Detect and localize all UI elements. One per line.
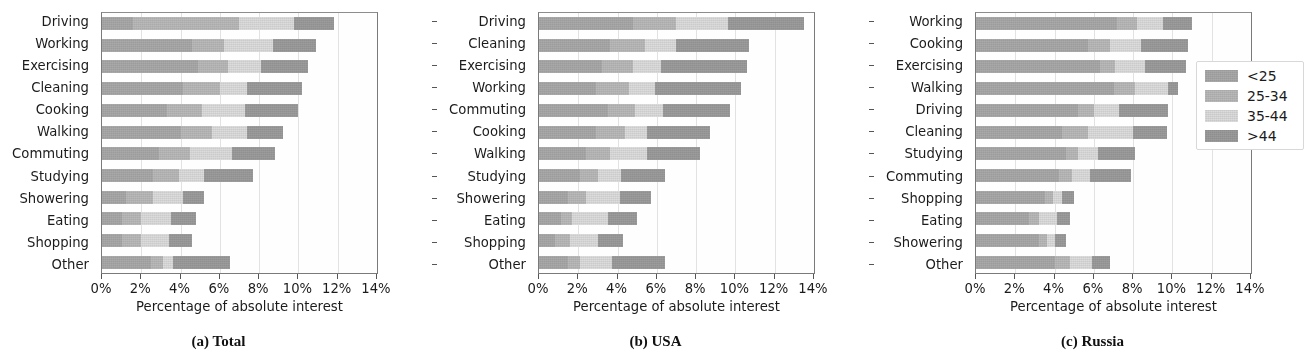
- y-tick-mark: [432, 242, 437, 243]
- bar-segment-lt25: [539, 60, 602, 73]
- y-axis-label: Exercising: [874, 59, 970, 72]
- x-tick-mark: [1211, 274, 1212, 279]
- bar-segment-35-44: [1039, 212, 1057, 225]
- bar-segment-35-44: [153, 191, 182, 204]
- bar-segment-gt44: [169, 234, 193, 247]
- bar-segment-lt25: [102, 234, 122, 247]
- chart-panel-usa: DrivingCleaningExercisingWorkingCommutin…: [437, 0, 874, 363]
- bar-segment-25-34: [133, 17, 239, 30]
- x-tick-mark: [695, 274, 696, 279]
- bar-segment-lt25: [976, 126, 1062, 139]
- bar-segment-lt25: [976, 191, 1045, 204]
- bar-row: [539, 39, 814, 52]
- bar-row: [539, 212, 814, 225]
- bar-segment-gt44: [1145, 60, 1186, 73]
- y-axis-label: Working: [0, 37, 96, 50]
- bar-row: [539, 60, 814, 73]
- bar-segment-lt25: [102, 212, 122, 225]
- bar-segment-25-34: [183, 82, 220, 95]
- bar-segment-gt44: [204, 169, 253, 182]
- bar-row: [539, 17, 814, 30]
- bar-row: [102, 147, 377, 160]
- bar-segment-25-34: [198, 60, 227, 73]
- x-tick-label: 6%: [208, 281, 229, 296]
- bar-row: [102, 104, 377, 117]
- bar-segment-gt44: [1098, 147, 1135, 160]
- bar-segment-35-44: [1137, 17, 1163, 30]
- bar-segment-25-34: [596, 126, 625, 139]
- bar-segment-gt44: [1119, 104, 1168, 117]
- y-axis-label: Walking: [437, 147, 533, 160]
- bar-segment-lt25: [102, 104, 167, 117]
- y-axis-labels-total: DrivingWorkingExercisingCleaningCookingW…: [0, 15, 96, 271]
- bar-segment-lt25: [102, 169, 153, 182]
- bar-segment-gt44: [1090, 169, 1131, 182]
- y-axis-labels-usa: DrivingCleaningExercisingWorkingCommutin…: [437, 15, 533, 271]
- x-axis-ticks-usa: [538, 274, 815, 280]
- x-axis-ticks-total: [101, 274, 378, 280]
- bar-segment-25-34: [610, 39, 645, 52]
- caption-usa: (b) USA: [437, 333, 874, 350]
- bar-segment-gt44: [183, 191, 205, 204]
- bar-segment-lt25: [539, 126, 596, 139]
- bar-segment-gt44: [612, 256, 665, 269]
- bar-segment-gt44: [1055, 234, 1067, 247]
- y-axis-label: Commuting: [0, 147, 96, 160]
- x-tick-label: 4%: [606, 281, 627, 296]
- bar-segment-gt44: [676, 39, 749, 52]
- bar-segment-35-44: [629, 82, 655, 95]
- chart-panel-russia: WorkingCookingExercisingWalkingDrivingCl…: [874, 0, 1311, 363]
- y-axis-label: Other: [437, 258, 533, 271]
- x-tick-label: 12%: [322, 281, 351, 296]
- bar-segment-25-34: [159, 147, 190, 160]
- bar-segment-gt44: [1163, 17, 1192, 30]
- plot-area-russia: WorkingCookingExercisingWalkingDrivingCl…: [874, 0, 1311, 300]
- x-tick-label: 8%: [248, 281, 269, 296]
- bar-segment-25-34: [122, 234, 142, 247]
- bar-segment-35-44: [572, 212, 607, 225]
- legend-label: 35-44: [1247, 108, 1288, 124]
- bar-segment-lt25: [976, 60, 1100, 73]
- x-tick-label: 2%: [1004, 281, 1025, 296]
- bar-segment-lt25: [539, 17, 633, 30]
- plot-area-total: DrivingWorkingExercisingCleaningCookingW…: [0, 0, 437, 300]
- bar-row: [102, 82, 377, 95]
- y-tick-mark: [869, 131, 874, 132]
- x-tick-label: 14%: [1235, 281, 1264, 296]
- y-axis-label: Driving: [0, 15, 96, 28]
- bar-segment-25-34: [167, 104, 202, 117]
- y-tick-mark: [432, 65, 437, 66]
- bar-segment-35-44: [1135, 82, 1168, 95]
- x-tick-mark: [1093, 274, 1094, 279]
- y-axis-label: Driving: [874, 103, 970, 116]
- bar-segment-gt44: [663, 104, 730, 117]
- bar-segment-lt25: [539, 191, 568, 204]
- bar-row: [102, 60, 377, 73]
- y-axis-label: Cooking: [437, 125, 533, 138]
- x-axis-tick-labels-russia: 0%2%4%6%8%10%12%14%: [975, 281, 1252, 298]
- caption-russia: (c) Russia: [874, 333, 1311, 350]
- bar-segment-25-34: [1066, 147, 1078, 160]
- legend-item: 35-44: [1205, 109, 1295, 122]
- bar-segment-gt44: [273, 39, 316, 52]
- x-tick-mark: [1250, 274, 1251, 279]
- x-tick-label: 0%: [91, 281, 112, 296]
- bar-row: [539, 169, 814, 182]
- bar-row: [102, 212, 377, 225]
- y-axis-label: Exercising: [437, 59, 533, 72]
- bar-segment-25-34: [1045, 191, 1053, 204]
- bar-segment-35-44: [570, 234, 598, 247]
- y-axis-label: Walking: [874, 81, 970, 94]
- bar-segment-35-44: [179, 169, 205, 182]
- bar-segment-35-44: [635, 104, 663, 117]
- bar-segment-35-44: [1110, 39, 1141, 52]
- bar-segment-lt25: [976, 39, 1088, 52]
- bar-segment-lt25: [102, 60, 198, 73]
- bar-segment-25-34: [192, 39, 223, 52]
- bar-segment-lt25: [976, 212, 1029, 225]
- y-tick-mark: [432, 198, 437, 199]
- bar-segment-35-44: [239, 17, 294, 30]
- y-tick-mark: [432, 43, 437, 44]
- x-axis-title-russia: Percentage of absolute interest: [975, 299, 1252, 314]
- bar-segment-gt44: [608, 212, 637, 225]
